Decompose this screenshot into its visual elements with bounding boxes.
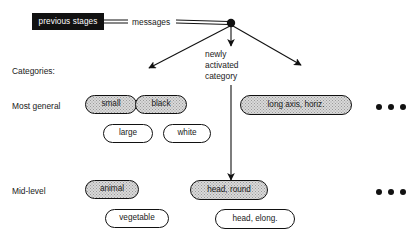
category-node-long-axis-horiz[interactable]: long axis, horiz. [240, 95, 352, 115]
annotation-line-3: category [205, 71, 239, 82]
category-node-large-label: large [119, 129, 137, 137]
category-node-large[interactable]: large [103, 124, 153, 143]
ellipsis-most-general-row [376, 104, 406, 110]
ellipsis-dot [388, 104, 394, 110]
category-node-long-axis-horiz-label: long axis, horiz. [268, 101, 325, 109]
annotation-line-1: newly [205, 49, 239, 60]
category-activation-diagram: previous stages messages Categories: Mos… [0, 0, 414, 242]
category-node-white[interactable]: white [163, 124, 211, 143]
newly-activated-category-annotation: newly activated category [205, 49, 239, 82]
category-node-vegetable-label: vegetable [119, 214, 155, 222]
category-node-animal-label: animal [100, 185, 124, 193]
previous-stages-label: previous stages [39, 17, 98, 26]
annotation-line-2: activated [205, 60, 239, 71]
category-node-black[interactable]: black [135, 95, 187, 114]
category-node-head-elong[interactable]: head, elong. [215, 209, 295, 229]
category-node-white-label: white [177, 129, 196, 137]
row-label-mid-level: Mid-level [12, 186, 46, 196]
ellipsis-dot [376, 104, 382, 110]
category-node-head-elong-label: head, elong. [232, 215, 277, 223]
ellipsis-dot [388, 189, 394, 195]
category-node-small[interactable]: small [85, 95, 137, 114]
ellipsis-mid-level-row [376, 189, 406, 195]
connector-source-to-messages [104, 20, 128, 23]
messages-label: messages [132, 17, 170, 27]
ellipsis-dot [400, 104, 406, 110]
category-node-black-label: black [151, 100, 170, 108]
arrow-junction-to-right [233, 26, 301, 65]
category-node-head-round[interactable]: head, round [190, 180, 268, 200]
category-node-small-label: small [101, 100, 120, 108]
category-node-vegetable[interactable]: vegetable [105, 209, 169, 228]
category-node-head-round-label: head, round [207, 186, 251, 194]
diagram-connector-layer [0, 0, 414, 242]
previous-stages-box: previous stages [32, 13, 104, 30]
row-label-most-general: Most general [12, 101, 60, 111]
categories-header-label: Categories: [12, 66, 55, 76]
ellipsis-dot [376, 189, 382, 195]
ellipsis-dot [400, 189, 406, 195]
connector-messages-to-junction [176, 20, 229, 25]
category-node-animal[interactable]: animal [85, 180, 139, 199]
